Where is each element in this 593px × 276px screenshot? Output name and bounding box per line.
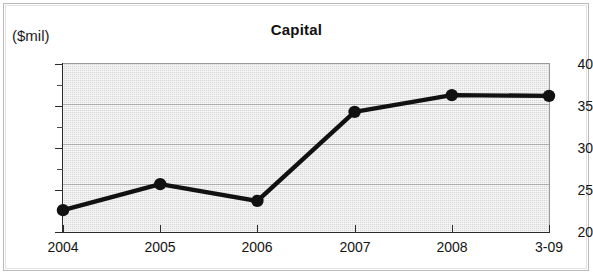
x-tick-label-2006: 2006	[217, 240, 297, 254]
y-tick-minor	[57, 169, 63, 170]
y-tick-major	[55, 232, 63, 233]
x-tick-label-2005: 2005	[120, 240, 200, 254]
chart-figure: ($mil) Capital 40 35 30 25 20 2004 2005 …	[0, 0, 593, 276]
y-tick-major	[55, 64, 63, 65]
x-tick-mark	[257, 225, 258, 233]
y-tick-minor	[57, 127, 63, 128]
plot-top-rule	[63, 63, 550, 64]
gridline-horizontal	[63, 184, 549, 185]
y-tick-minor	[57, 211, 63, 212]
x-tick-mark	[160, 225, 161, 233]
x-tick-mark	[355, 225, 356, 233]
y-tick-major	[55, 190, 63, 191]
x-tick-label-3-09: 3-09	[509, 240, 589, 254]
y-tick-major	[55, 148, 63, 149]
y-tick-major	[55, 106, 63, 107]
gridline-horizontal	[63, 144, 549, 145]
x-tick-mark	[549, 225, 550, 233]
y-tick-label-20: 20	[543, 225, 593, 239]
plot-area	[63, 64, 549, 232]
x-tick-label-2004: 2004	[23, 240, 103, 254]
gridline-horizontal	[63, 104, 549, 105]
chart-title: Capital	[0, 21, 593, 38]
x-tick-label-2007: 2007	[315, 240, 395, 254]
y-tick-label-25: 25	[543, 183, 593, 197]
x-tick-label-2008: 2008	[412, 240, 492, 254]
x-axis-spine	[62, 232, 550, 233]
y-tick-label-40: 40	[543, 57, 593, 71]
y-tick-minor	[57, 85, 63, 86]
x-tick-mark	[63, 225, 64, 233]
x-tick-mark	[452, 225, 453, 233]
y-tick-label-30: 30	[543, 141, 593, 155]
y-tick-label-35: 35	[543, 99, 593, 113]
